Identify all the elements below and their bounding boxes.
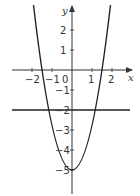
y-tick-label: 1 — [60, 45, 66, 56]
graph-canvas: x y −2 −1 0 1 2 2 1 −1 −2 −3 −4 −5 — [0, 0, 140, 196]
origin-label: 0 — [62, 74, 68, 85]
y-tick-label: −3 — [55, 125, 70, 136]
y-tick-label: −2 — [55, 105, 70, 116]
x-axis-label: x — [128, 72, 134, 83]
y-axis-label: y — [61, 5, 68, 16]
x-tick-label: 1 — [88, 74, 94, 85]
y-tick-label: −1 — [55, 85, 70, 96]
y-tick-label: −4 — [55, 145, 70, 156]
y-tick-label: 2 — [60, 25, 66, 36]
x-tick-label: −2 — [25, 74, 40, 85]
x-tick-label: 2 — [108, 74, 114, 85]
y-tick-label: −5 — [55, 165, 70, 176]
x-tick-label: −1 — [45, 74, 60, 85]
